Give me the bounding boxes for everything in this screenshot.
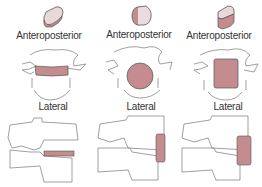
ap-block-round xyxy=(127,63,153,89)
ap-block-rect xyxy=(214,59,238,88)
lateral-block-thin xyxy=(44,151,74,156)
shape-3d-block xyxy=(218,6,234,29)
lateral-vertebra-outlines xyxy=(8,116,248,182)
label-ap-3: Anteroposterior xyxy=(175,30,262,41)
shape-3d-thin xyxy=(44,7,63,27)
label-lateral-3: Lateral xyxy=(184,101,262,112)
label-lateral-1: Lateral xyxy=(9,101,97,112)
lateral-block-rect xyxy=(237,136,251,165)
shape-3d-round xyxy=(132,6,151,25)
label-ap-2: Anteroposterior xyxy=(95,29,183,40)
ap-block-thin xyxy=(35,66,68,76)
label-lateral-2: Lateral xyxy=(97,101,185,112)
ap-lower-outlines xyxy=(34,90,242,100)
label-ap-1: Anteroposterior xyxy=(5,30,93,41)
lateral-block-round xyxy=(156,134,165,162)
